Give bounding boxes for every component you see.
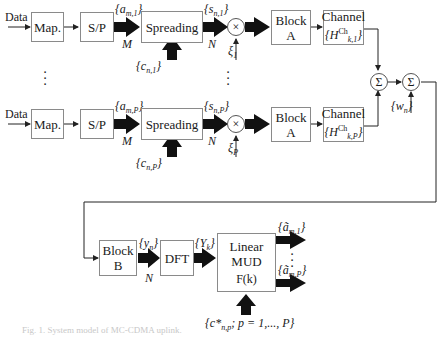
spreading-label: Spreading [146, 117, 199, 132]
sp-label: S/P [88, 117, 106, 132]
sp-size-label-p: M [122, 135, 132, 148]
sp-block-p: S/P [80, 109, 114, 139]
channel-response-p: {HChk,P} [324, 121, 362, 144]
code-label-1: {cn,1} [136, 60, 161, 77]
block-a-1: Block A [271, 10, 311, 45]
channel-label: Channel [322, 9, 365, 24]
spreading-block-p: Spreading [141, 108, 203, 140]
block-a-line1: Block [275, 13, 306, 28]
channel-block-p: Channel {HChk,P} [323, 107, 364, 142]
channel-label: Channel [322, 106, 365, 121]
y-size-label: N [145, 272, 153, 285]
block-a-line1: Block [275, 110, 306, 125]
spreading-block-1: Spreading [141, 11, 203, 43]
mud-line1: Linear [230, 239, 264, 254]
mud-filter-label: F(k) [236, 272, 257, 287]
spread-size-label-1: N [208, 38, 216, 51]
multiplier-node-p: × [227, 115, 245, 133]
spread-output-label-p: {sn,P} [204, 100, 229, 117]
mapper-block-p: Map. [31, 109, 64, 139]
connection-lines [0, 0, 445, 344]
data-input-label-p: Data [5, 108, 28, 121]
spreading-label: Spreading [146, 20, 199, 35]
sp-block-1: S/P [80, 12, 114, 42]
xi-label-1: ξ1 [228, 45, 237, 62]
linear-mud-block: Linear MUD F(k) [217, 233, 276, 292]
block-a-line2: A [286, 28, 295, 43]
mud-line2: MUD [231, 254, 261, 269]
sum-node-users: Σ [370, 73, 388, 91]
sp-output-label-p: {am,P} [115, 100, 143, 117]
xi-label-p: ξP [228, 142, 238, 159]
sum-node-noise: Σ [402, 73, 420, 91]
output-label-1: {ãm,1} [278, 221, 305, 238]
multiplier-node-1: × [227, 18, 245, 36]
output-label-p: {ãm,P} [278, 264, 306, 281]
block-b-line1: Block [102, 243, 133, 258]
vertical-ellipsis-icon: ··· [42, 70, 48, 88]
dft-block: DFT [160, 240, 194, 276]
block-b: Block B [99, 240, 137, 276]
sp-label: S/P [88, 20, 106, 35]
y-time-label: {yn} [139, 237, 158, 254]
spread-output-label-1: {sn,1} [204, 3, 228, 20]
mapper-label: Map. [34, 117, 61, 132]
block-b-line2: B [114, 258, 123, 273]
y-freq-label: {Yk} [195, 237, 215, 254]
channel-response-1: {HChk,1} [325, 24, 362, 47]
noise-label: {wn} [391, 100, 413, 117]
figure-caption: Fig. 1. System model of MC-CDMA uplink. [22, 325, 182, 335]
sp-size-label-1: M [122, 38, 132, 51]
spread-size-label-p: N [208, 135, 216, 148]
block-a-line2: A [286, 125, 295, 140]
channel-block-1: Channel {HChk,1} [323, 10, 364, 45]
code-label-p: {cn,P} [136, 157, 162, 174]
block-a-p: Block A [271, 107, 311, 142]
mapper-label: Map. [34, 20, 61, 35]
mapper-block-1: Map. [31, 12, 64, 42]
vertical-ellipsis-icon: ··· [225, 70, 231, 88]
dft-label: DFT [165, 251, 190, 266]
sp-output-label-1: {am,1} [115, 3, 142, 20]
codes-input-label: {c*n,p; p = 1,..., P} [205, 317, 294, 334]
data-input-label-1: Data [5, 11, 28, 24]
